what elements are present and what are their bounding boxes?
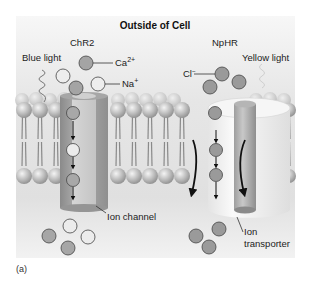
optogenetics-diagram: Outside of Cell: [0, 0, 309, 281]
label-blue-light: Blue light: [22, 52, 61, 63]
label-ion-transporter-2: transporter: [244, 238, 290, 249]
figure-caption: (a): [16, 264, 27, 274]
title-outside-of-cell: Outside of Cell: [120, 20, 191, 31]
label-yellow-light: Yellow light: [242, 52, 290, 63]
label-chr2: ChR2: [70, 37, 94, 48]
label-ion-channel: Ion channel: [107, 211, 156, 222]
label-ion-transporter-1: Ion: [244, 226, 257, 237]
label-nphr: NpHR: [212, 37, 238, 48]
